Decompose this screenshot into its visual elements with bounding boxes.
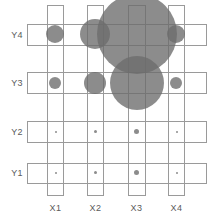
- x-tick-label-x2: X2: [80, 203, 111, 213]
- x-axis: X1 X2 X3 X4: [0, 0, 220, 219]
- x-tick-label-x1: X1: [40, 203, 71, 213]
- x-tick-label-x3: X3: [121, 203, 152, 213]
- bubble-matrix-chart: Y4 Y3 Y2 Y1 X1 X2 X3 X4: [0, 0, 220, 219]
- x-tick-label-x4: X4: [161, 203, 192, 213]
